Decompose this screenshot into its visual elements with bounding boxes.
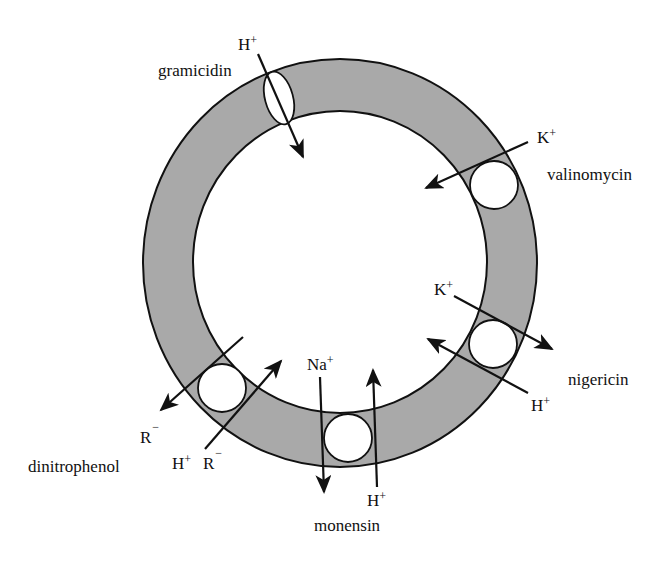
- dinitrophenol-label: dinitrophenol: [28, 457, 120, 476]
- valinomycin-label: valinomycin: [547, 165, 632, 184]
- nigericin-h-label: H+: [531, 394, 550, 415]
- membrane-ring: [143, 59, 537, 467]
- gramicidin-label: gramicidin: [158, 61, 232, 80]
- dinitrophenol-in-r-label: R−: [203, 446, 222, 473]
- monensin-na-label: Na+: [307, 353, 334, 374]
- dinitrophenol-out-label: R−: [140, 420, 159, 447]
- dinitrophenol-in-h-label: H+: [172, 452, 191, 473]
- monensin-carrier: [324, 414, 372, 462]
- nigericin-k-label: K+: [434, 278, 453, 299]
- valinomycin-ion-label: K+: [537, 126, 556, 147]
- nigericin-label: nigericin: [568, 370, 629, 389]
- valinomycin-carrier: [470, 161, 518, 209]
- monensin-label: monensin: [314, 516, 381, 535]
- gramicidin-ion-label: H+: [238, 33, 257, 54]
- monensin-h-label: H+: [367, 489, 386, 510]
- membrane-diagram: H+ gramicidin K+ valinomycin K+ H+ niger…: [0, 0, 669, 563]
